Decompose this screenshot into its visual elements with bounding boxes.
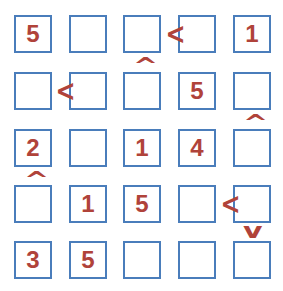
cell-r2c1[interactable]	[14, 72, 52, 110]
up-caret-sign-c5-r2r3: ^	[243, 116, 268, 130]
cell-r3c1[interactable]: 2	[14, 129, 52, 167]
less-than-sign-r2-c1c2: <	[56, 76, 76, 106]
cell-r2c4[interactable]: 5	[178, 72, 216, 110]
cell-r4c3[interactable]: 5	[123, 185, 161, 223]
cell-r3c2[interactable]	[69, 129, 107, 167]
cell-r4c2[interactable]: 1	[69, 185, 107, 223]
up-caret-sign-c1-r3r4: ^	[24, 173, 49, 187]
cell-r1c3[interactable]	[123, 15, 161, 53]
cell-r3c4[interactable]: 4	[178, 129, 216, 167]
cell-r1c5[interactable]: 1	[233, 15, 271, 53]
cell-r5c3[interactable]	[123, 241, 161, 279]
down-caret-sign-c5-r4r5: v	[243, 224, 263, 238]
cell-r2c5[interactable]	[233, 72, 271, 110]
cell-r5c2[interactable]: 5	[69, 241, 107, 279]
cell-r1c1[interactable]: 5	[14, 15, 52, 53]
less-than-sign-r4-c4c5: <	[221, 189, 241, 219]
cell-r5c5[interactable]	[233, 241, 271, 279]
cell-r1c2[interactable]	[69, 15, 107, 53]
cell-r5c4[interactable]	[178, 241, 216, 279]
up-caret-sign-c3-r1r2: ^	[133, 59, 158, 73]
less-than-sign-r1-c3c4: <	[166, 19, 186, 49]
cell-r5c1[interactable]: 3	[14, 241, 52, 279]
cell-r4c4[interactable]	[178, 185, 216, 223]
cell-r3c3[interactable]: 1	[123, 129, 161, 167]
